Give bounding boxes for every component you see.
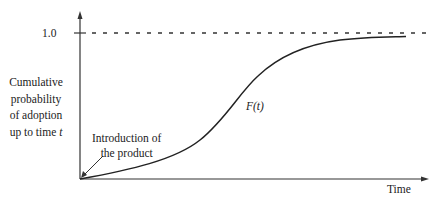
y-axis-label: Cumulative probability of adoption up to… xyxy=(0,74,72,140)
intro-pointer-arrow-icon xyxy=(81,171,87,178)
y-label-line-4-text: up to time xyxy=(10,126,60,138)
intro-line-1: Introduction of xyxy=(92,131,161,146)
y-label-variable: t xyxy=(59,126,62,138)
curve-label: F(t) xyxy=(246,98,264,114)
y-label-line-2: probability xyxy=(0,91,72,108)
x-axis-arrow-icon xyxy=(421,177,429,182)
intro-annotation: Introduction of the product xyxy=(92,131,161,161)
y-label-line-3: of adoption xyxy=(0,107,72,124)
x-axis-label: Time xyxy=(387,181,411,197)
y-axis-arrow-icon xyxy=(78,11,83,19)
y-tick-label-1: 1.0 xyxy=(42,25,56,41)
y-label-line-4: up to time t xyxy=(0,124,72,141)
intro-line-2: the product xyxy=(92,146,161,161)
y-label-line-1: Cumulative xyxy=(0,74,72,91)
